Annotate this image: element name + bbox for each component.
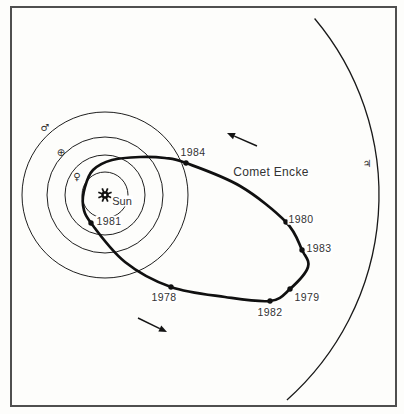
year-label-1983: 1983 [306, 243, 333, 254]
orbit-diagram-canvas [0, 0, 404, 414]
orbit-position-dot [183, 160, 188, 165]
motion-arrow-shaft [234, 136, 257, 146]
year-label-1978: 1978 [151, 292, 178, 303]
orbit-position-dot [267, 298, 272, 303]
year-label-1981: 1981 [96, 216, 123, 227]
orbit-position-dot [287, 286, 292, 291]
year-label-1984: 1984 [180, 147, 207, 158]
orbit-position-dot [168, 284, 173, 289]
sun-icon [104, 194, 107, 197]
comet-encke-label: Comet Encke [232, 166, 309, 178]
year-label-1980: 1980 [288, 214, 315, 225]
comet-encke-orbit-figure: 1984 1981 1978 1982 1979 1983 1980 Sun C… [0, 0, 404, 414]
jupiter-orbit-arc [287, 19, 379, 400]
earth-symbol-icon: ⊕ [57, 148, 65, 158]
sun-label: Sun [111, 196, 133, 207]
orbit-position-dot [299, 247, 304, 252]
motion-arrow-shaft [138, 318, 160, 329]
venus-symbol-icon: ♀ [73, 172, 80, 182]
mars-symbol-icon: ♂ [41, 123, 50, 133]
orbit-position-dot [88, 220, 93, 225]
year-label-1982: 1982 [257, 307, 284, 318]
jupiter-symbol-icon: ♃ [363, 159, 372, 169]
year-label-1979: 1979 [294, 292, 321, 303]
